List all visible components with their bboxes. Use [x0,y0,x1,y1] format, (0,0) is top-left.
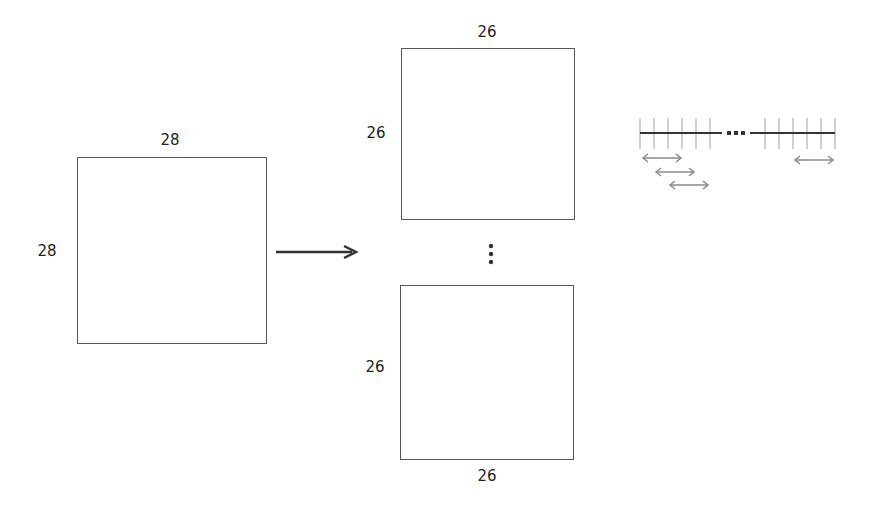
gap-dots-icon [727,131,745,135]
window-arrows [643,154,833,189]
sliding-window-diagram [0,0,873,511]
